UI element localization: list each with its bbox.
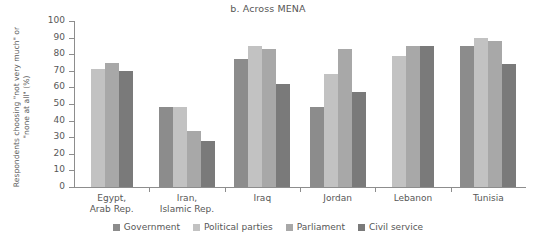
y-tick-label: 60 xyxy=(54,81,65,91)
y-tick-label: 10 xyxy=(54,164,65,174)
plot-area: 0102030405060708090100 Egypt,Arab Rep.Ir… xyxy=(74,21,526,187)
bar[interactable] xyxy=(119,71,133,187)
bar-group xyxy=(74,21,149,187)
x-category-label: Iraq xyxy=(225,193,300,204)
bar-group-bars xyxy=(375,21,450,187)
y-tick-label: 100 xyxy=(48,15,65,25)
bar-group-bars xyxy=(225,21,300,187)
x-category-label-line: Jordan xyxy=(300,193,375,204)
legend-swatch-icon xyxy=(113,224,120,231)
legend-label: Government xyxy=(124,222,180,232)
bar-group xyxy=(149,21,224,187)
y-tick-label: 70 xyxy=(54,65,65,75)
bar[interactable] xyxy=(392,56,406,187)
x-tick xyxy=(451,187,452,192)
bar[interactable] xyxy=(474,38,488,187)
bar-group-bars xyxy=(74,21,149,187)
bar[interactable] xyxy=(91,69,105,187)
legend-label: Parliament xyxy=(297,222,345,232)
x-category-label-line: Lebanon xyxy=(375,193,450,204)
legend-item[interactable]: Government xyxy=(113,222,180,232)
bar[interactable] xyxy=(173,107,187,187)
legend-item[interactable]: Political parties xyxy=(193,222,273,232)
x-category-label: Tunisia xyxy=(451,193,526,204)
legend-label: Civil service xyxy=(369,222,423,232)
bar[interactable] xyxy=(105,63,119,188)
x-category-label-line: Islamic Rep. xyxy=(149,204,224,215)
bar[interactable] xyxy=(420,46,434,187)
bar-group-bars xyxy=(149,21,224,187)
x-tick xyxy=(300,187,301,192)
bar[interactable] xyxy=(310,107,324,187)
x-category-label-line: Egypt, xyxy=(74,193,149,204)
bar[interactable] xyxy=(248,46,262,187)
y-tick-label: 40 xyxy=(54,115,65,125)
chart-title: b. Across MENA xyxy=(0,3,536,14)
x-tick xyxy=(375,187,376,192)
legend-swatch-icon xyxy=(193,224,200,231)
y-tick-label: 0 xyxy=(59,181,65,191)
y-tick-label: 20 xyxy=(54,148,65,158)
x-category-label-line: Iran, xyxy=(149,193,224,204)
bar[interactable] xyxy=(502,64,516,187)
legend-label: Political parties xyxy=(204,222,273,232)
legend-item[interactable]: Parliament xyxy=(286,222,345,232)
bar[interactable] xyxy=(460,46,474,187)
y-tick-label: 50 xyxy=(54,98,65,108)
chart-legend: GovernmentPolitical partiesParliamentCiv… xyxy=(0,222,536,232)
y-tick-label: 30 xyxy=(54,131,65,141)
bar-group xyxy=(451,21,526,187)
bar[interactable] xyxy=(338,49,352,187)
bar[interactable] xyxy=(159,107,173,187)
bar[interactable] xyxy=(187,131,201,187)
bar-group-bars xyxy=(300,21,375,187)
bar[interactable] xyxy=(234,59,248,187)
x-tick xyxy=(149,187,150,192)
bar[interactable] xyxy=(352,92,366,187)
x-category-label: Egypt,Arab Rep. xyxy=(74,193,149,214)
legend-swatch-icon xyxy=(358,224,365,231)
x-category-label-line: Tunisia xyxy=(451,193,526,204)
x-category-label-line: Iraq xyxy=(225,193,300,204)
bar[interactable] xyxy=(262,49,276,187)
bar[interactable] xyxy=(488,41,502,187)
bar[interactable] xyxy=(276,84,290,187)
x-tick xyxy=(225,187,226,192)
x-category-label-line: Arab Rep. xyxy=(74,204,149,215)
bar-group xyxy=(300,21,375,187)
y-tick: 0 xyxy=(69,187,74,188)
x-category-label: Lebanon xyxy=(375,193,450,204)
y-tick-label: 80 xyxy=(54,48,65,58)
legend-item[interactable]: Civil service xyxy=(358,222,423,232)
bar-group-bars xyxy=(451,21,526,187)
y-tick-label: 90 xyxy=(54,32,65,42)
legend-swatch-icon xyxy=(286,224,293,231)
bar[interactable] xyxy=(201,141,215,187)
bar[interactable] xyxy=(324,74,338,187)
x-category-label: Jordan xyxy=(300,193,375,204)
bar-group xyxy=(375,21,450,187)
bar-group xyxy=(225,21,300,187)
bar[interactable] xyxy=(406,46,420,187)
y-axis-label: Respondents choosing "not very much" or … xyxy=(12,22,32,192)
x-category-label: Iran,Islamic Rep. xyxy=(149,193,224,214)
chart-figure: b. Across MENA Respondents choosing "not… xyxy=(0,0,536,242)
